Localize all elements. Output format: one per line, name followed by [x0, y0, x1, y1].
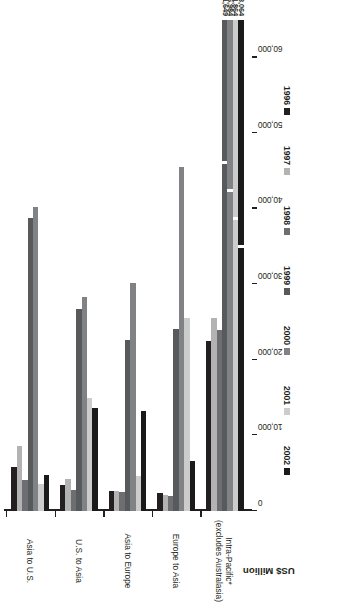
bar	[141, 411, 146, 511]
chart-legend: 1996199719981999200020012002	[282, 63, 308, 483]
legend-label: 2000	[282, 326, 292, 345]
category-axis-label: Asia to U.S.	[24, 519, 34, 603]
axis-break	[238, 245, 243, 248]
legend-swatch	[284, 108, 291, 115]
legend-item: 1999	[282, 266, 292, 295]
legend-item: 2000	[282, 326, 292, 355]
legend-swatch	[284, 288, 291, 295]
bar-group	[152, 20, 201, 511]
value-axis-tick	[252, 359, 257, 360]
category-axis-label: U.S. to Asia	[73, 519, 83, 603]
legend-item: 1997	[282, 146, 292, 175]
value-axis-tick-label: 0	[258, 498, 262, 508]
legend-label: 1998	[282, 206, 292, 225]
legend-item: 1998	[282, 206, 292, 235]
bar-value-label: 123,064	[237, 0, 246, 16]
legend-swatch	[284, 408, 291, 415]
chart-figure-rotator: 81,649186,984151,864123,064 010,00020,00…	[0, 0, 337, 603]
bar-group	[103, 20, 152, 511]
category-label-main: Intra-Pacific*	[224, 537, 234, 584]
legend-label: 2001	[282, 386, 292, 405]
value-axis-tick-label: 30,000	[258, 271, 282, 281]
bar-chart-figure: 81,649186,984151,864123,064 010,00020,00…	[0, 0, 337, 603]
value-axis-tick-label: 60,000	[258, 44, 282, 54]
bar	[44, 475, 49, 511]
value-axis-tick-label: 50,000	[258, 120, 282, 130]
legend-label: 1997	[282, 146, 292, 165]
value-axis-tick	[252, 434, 257, 435]
category-axis-tick	[200, 511, 201, 517]
legend-item: 1996	[282, 86, 292, 115]
category-axis-tick	[55, 511, 56, 517]
plot-area: 81,649186,984151,864123,064	[6, 20, 249, 511]
category-label-main: U.S. to Asia	[73, 539, 83, 583]
value-axis-tick	[252, 510, 257, 511]
category-axis-tick	[6, 511, 7, 517]
category-label-main: Asia to Europe	[122, 534, 132, 589]
category-axis-tick	[103, 511, 104, 517]
legend-item: 2002	[282, 446, 292, 475]
bar	[190, 461, 195, 511]
value-axis-tick-label: 10,000	[258, 422, 282, 432]
category-axis-tick	[152, 511, 153, 517]
legend-swatch	[284, 348, 291, 355]
bar	[33, 207, 38, 511]
value-axis-tick-label: 20,000	[258, 347, 282, 357]
category-axis-label: Intra-Pacific*(excludes Australasia)	[214, 519, 233, 603]
legend-label: 2002	[282, 446, 292, 465]
value-axis-tick	[252, 207, 257, 208]
value-axis-tick	[252, 56, 257, 57]
bar-group	[6, 20, 55, 511]
bar-group: 81,649186,984151,864123,064	[200, 20, 249, 511]
bar-group	[55, 20, 104, 511]
category-axis-label: Europe to Asia	[170, 519, 180, 603]
value-axis-title: US$ Million	[243, 566, 295, 577]
category-label-main: Asia to U.S.	[25, 539, 35, 583]
bar	[92, 408, 97, 511]
legend-item: 2001	[282, 386, 292, 415]
legend-swatch	[284, 228, 291, 235]
bar: 123,064	[238, 20, 243, 511]
value-axis-tick	[252, 283, 257, 284]
value-axis-tick	[252, 132, 257, 133]
legend-swatch	[284, 468, 291, 475]
value-axis-tick-label: 40,000	[258, 195, 282, 205]
legend-label: 1996	[282, 86, 292, 105]
legend-swatch	[284, 168, 291, 175]
legend-label: 1999	[282, 266, 292, 285]
category-label-sub: (excludes Australasia)	[214, 519, 224, 603]
category-axis-label: Asia to Europe	[122, 519, 132, 603]
category-label-main: Europe to Asia	[171, 534, 181, 588]
